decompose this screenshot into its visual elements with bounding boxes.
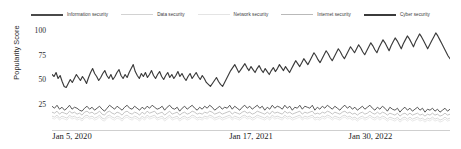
series-line <box>52 105 450 112</box>
x-axis-tick-label: Jan 17, 2021 <box>229 131 273 141</box>
series-lines <box>52 26 450 130</box>
legend-swatch-line-icon <box>364 14 396 16</box>
legend-swatch-line-icon <box>281 14 313 15</box>
series-line <box>52 33 450 87</box>
chart-container: Information securityData securityNetwork… <box>0 0 461 149</box>
y-axis-tick-label: 50 <box>38 76 46 84</box>
legend-item[interactable]: Internet security <box>281 12 351 17</box>
legend-item[interactable]: Data security <box>121 12 184 17</box>
chart-legend: Information securityData securityNetwork… <box>0 9 461 20</box>
series-line <box>52 117 450 122</box>
y-axis-tick-label: 75 <box>38 52 46 60</box>
y-axis-ticks: 255075100 <box>24 0 46 149</box>
legend-item[interactable]: Network security <box>198 12 269 17</box>
y-axis-tick-label: 25 <box>38 101 46 109</box>
legend-label: Internet security <box>317 12 351 17</box>
x-axis-tick-label: Jan 30, 2022 <box>349 131 393 141</box>
legend-label: Information security <box>67 12 108 17</box>
legend-swatch-line-icon <box>198 14 230 15</box>
y-axis-label: Popularity Score <box>12 7 21 99</box>
legend-label: Cyber security <box>400 12 430 17</box>
legend-label: Network security <box>234 12 269 17</box>
x-axis-tick-label: Jan 5, 2020 <box>52 131 91 141</box>
plot-area <box>52 26 450 130</box>
legend-swatch-line-icon <box>121 14 153 15</box>
legend-label: Data security <box>157 12 184 17</box>
legend-item[interactable]: Cyber security <box>364 12 430 17</box>
series-line <box>52 111 450 116</box>
y-axis-tick-label: 100 <box>35 27 46 35</box>
